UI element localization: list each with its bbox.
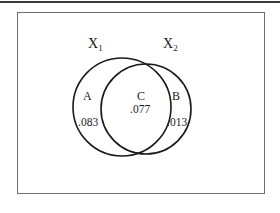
region-value-a: .083 [78, 117, 98, 129]
set-label-x1-subscript: 1 [98, 43, 103, 53]
set-label-x2-text: X [163, 36, 173, 51]
circle-x1 [73, 58, 171, 156]
set-label-x2-subscript: 2 [173, 43, 178, 53]
set-label-x2: X2 [163, 37, 178, 53]
region-label-b: B [172, 90, 180, 102]
region-value-c: .077 [130, 104, 150, 116]
region-label-c: C [137, 90, 145, 102]
set-label-x1-text: X [88, 36, 98, 51]
set-label-x1: X1 [88, 37, 103, 53]
region-label-a: A [83, 90, 92, 102]
region-value-b: .013 [167, 117, 187, 129]
